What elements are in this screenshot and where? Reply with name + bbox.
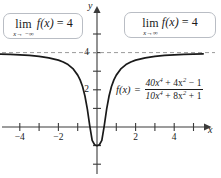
lim-word-left: lim bbox=[15, 18, 32, 30]
lim-operator-right: lim x→∞ bbox=[142, 17, 159, 36]
function-formula: f(x) = 40x4 + 4x2 − 1 10x4 + 8x2 + 1 bbox=[116, 78, 203, 102]
lim-subscript-right: x→∞ bbox=[143, 30, 157, 37]
lim-word-right: lim bbox=[142, 17, 159, 29]
numer-term-b: + 4x bbox=[163, 78, 183, 88]
lim-function-right: f(x) bbox=[162, 15, 179, 30]
x-tick-label-2: 2 bbox=[127, 132, 145, 142]
y-tick-label-4: 4 bbox=[75, 47, 89, 57]
y-axis-arrow bbox=[93, 6, 100, 13]
lim-equals-right: = bbox=[182, 15, 189, 30]
formula-equals: = bbox=[135, 84, 141, 95]
formula-fraction: 40x4 + 4x2 − 1 10x4 + 8x2 + 1 bbox=[145, 78, 203, 102]
formula-numerator: 40x4 + 4x2 − 1 bbox=[145, 78, 203, 88]
x-tick-label--4: −4 bbox=[11, 132, 29, 142]
formula-denominator: 10x4 + 8x2 + 1 bbox=[145, 91, 203, 101]
formula-fx-label: f(x) bbox=[116, 84, 131, 95]
limit-callout-left: lim x→ −∞ f(x) = 4 bbox=[3, 13, 83, 39]
denom-term-c: + 1 bbox=[186, 91, 201, 101]
numer-term-a: 40x bbox=[146, 78, 160, 88]
figure-container: lim x→ −∞ f(x) = 4 lim x→∞ f(x) = 4 f(x)… bbox=[0, 0, 221, 178]
denom-term-b: + 8x bbox=[163, 91, 183, 101]
y-tick-label-2: 2 bbox=[75, 84, 89, 94]
lim-equals-left: = bbox=[57, 16, 64, 31]
limit-expression-right: lim x→∞ f(x) = 4 bbox=[142, 15, 198, 35]
lim-value-right: 4 bbox=[192, 15, 198, 30]
y-axis-label: y bbox=[88, 0, 92, 11]
lim-subscript-left: x→ −∞ bbox=[13, 31, 34, 38]
x-axis-label: x bbox=[208, 124, 212, 135]
limit-expression-left: lim x→ −∞ f(x) = 4 bbox=[13, 16, 73, 36]
lim-value-left: 4 bbox=[67, 16, 73, 31]
denom-term-a: 10x bbox=[146, 91, 160, 101]
lim-operator-left: lim x→ −∞ bbox=[13, 18, 34, 37]
numer-term-c: − 1 bbox=[186, 78, 201, 88]
limit-callout-right: lim x→∞ f(x) = 4 bbox=[124, 12, 216, 38]
lim-function-left: f(x) bbox=[37, 16, 54, 31]
x-tick-label-4: 4 bbox=[165, 132, 183, 142]
x-tick-label--2: −2 bbox=[49, 132, 67, 142]
